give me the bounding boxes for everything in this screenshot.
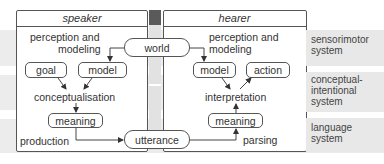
arrow-meaning-to-utterance bbox=[76, 128, 123, 140]
arrows-layer bbox=[0, 0, 384, 164]
arrow-world-to-hearer-model bbox=[190, 48, 204, 61]
arrow-model-to-conceptualisation bbox=[84, 78, 92, 89]
arrow-world-to-speaker-model bbox=[110, 48, 124, 61]
arrow-utterance-to-hearer-meaning bbox=[190, 129, 236, 140]
arrow-hearer-model-to-interpretation bbox=[222, 78, 230, 89]
arrow-goal-to-conceptualisation bbox=[58, 78, 66, 89]
arrow-interpretation-to-action bbox=[240, 78, 251, 89]
